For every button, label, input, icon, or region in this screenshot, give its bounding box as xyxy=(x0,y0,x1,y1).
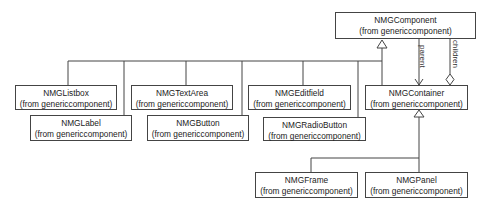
class-name: NMGRadioButton xyxy=(264,120,365,131)
class-name: NMGFrame xyxy=(256,175,357,186)
class-nmgradiobutton[interactable]: NMGRadioButton (from genericcomponent) xyxy=(263,117,366,141)
class-nmglistbox[interactable]: NMGListbox (from genericcomponent) xyxy=(15,85,117,110)
class-nmgtextarea[interactable]: NMGTextArea (from genericcomponent) xyxy=(131,85,233,110)
class-nmgframe[interactable]: NMGFrame (from genericcomponent) xyxy=(255,172,358,198)
role-children-label: children xyxy=(451,40,460,68)
class-name: NMGButton xyxy=(148,118,248,129)
class-package: (from genericcomponent) xyxy=(366,186,467,197)
class-package: (from genericcomponent) xyxy=(132,99,232,110)
aggregation-diamond-icon xyxy=(446,74,454,85)
class-package: (from genericcomponent) xyxy=(16,99,116,110)
class-package: (from genericcomponent) xyxy=(366,99,467,110)
class-nmgcomponent[interactable]: NMGComponent (from genericcomponent) xyxy=(335,12,476,39)
class-nmgbutton[interactable]: NMGButton (from genericcomponent) xyxy=(147,115,249,141)
generalization-arrow-icon xyxy=(414,110,424,117)
class-package: (from genericcomponent) xyxy=(31,129,131,140)
class-name: NMGPanel xyxy=(366,175,467,186)
class-name: NMGTextArea xyxy=(132,88,232,99)
role-parent-label: parent xyxy=(418,45,427,68)
class-package: (from genericcomponent) xyxy=(256,186,357,197)
class-package: (from genericcomponent) xyxy=(148,129,248,140)
class-name: NMGListbox xyxy=(16,88,116,99)
class-nmglabel[interactable]: NMGLabel (from genericcomponent) xyxy=(30,115,132,141)
class-nmgeditfield[interactable]: NMGEditfield (from genericcomponent) xyxy=(248,85,351,110)
class-package: (from genericcomponent) xyxy=(336,26,475,37)
class-name: NMGComponent xyxy=(336,15,475,26)
generalization-arrow-icon xyxy=(377,40,387,48)
class-name: NMGEditfield xyxy=(249,88,350,99)
class-name: NMGLabel xyxy=(31,118,131,129)
class-package: (from genericcomponent) xyxy=(249,99,350,110)
class-package: (from genericcomponent) xyxy=(264,131,365,142)
class-nmgcontainer[interactable]: NMGContainer (from genericcomponent) xyxy=(365,85,468,110)
class-name: NMGContainer xyxy=(366,88,467,99)
class-nmgpanel[interactable]: NMGPanel (from genericcomponent) xyxy=(365,172,468,198)
